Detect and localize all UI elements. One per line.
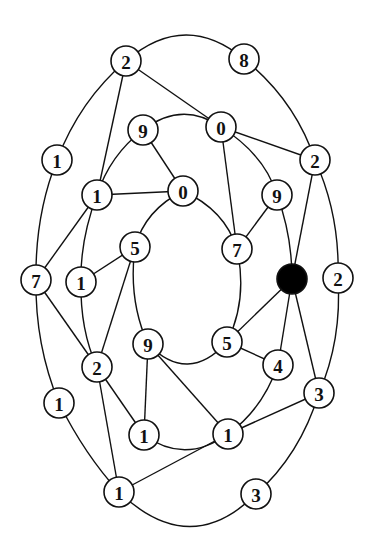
graph-edge [315,160,338,278]
graph-node: 1 [44,388,74,418]
graph-node: 9 [133,329,163,359]
graph-node: 7 [21,265,51,295]
graph-node: 1 [104,477,134,507]
graph-edge [292,279,319,393]
graph-node: 3 [304,378,334,408]
graph-edge [119,492,256,527]
node-label: 1 [114,483,124,504]
node-label: 5 [130,238,140,259]
graph-diagram: 281902109572719542311113 [0,0,378,560]
graph-edge [319,278,339,393]
graph-node: 2 [111,46,141,76]
node-label: 1 [76,273,86,294]
node-label: 7 [232,240,242,261]
graph-node: 1 [129,420,159,450]
graph-node: 5 [212,327,242,357]
node-label: 8 [239,50,249,71]
node-label: 9 [138,121,148,142]
graph-node: 1 [66,267,96,297]
graph-edge [59,403,119,492]
graph-node: 5 [120,232,150,262]
node-label: 3 [251,485,261,506]
node-label: 2 [333,269,343,290]
node-label: 7 [31,271,41,292]
node-label: 1 [52,151,62,172]
node-label: 2 [92,358,102,379]
node-label: 9 [272,186,282,207]
node-label: 2 [121,52,131,73]
graph-node: 9 [262,180,292,210]
graph-edge [97,247,135,367]
graph-node: 4 [263,350,293,380]
graph-edge [97,61,126,195]
graph-edge [36,160,57,280]
graph-node: 9 [128,115,158,145]
graph-node: 2 [323,263,353,293]
graph-edge [126,35,244,61]
node-label: 4 [273,356,283,377]
graph-node: 1 [82,180,112,210]
graph-node: 8 [229,44,259,74]
node-circle [277,264,307,294]
node-label: 1 [92,186,102,207]
graph-node: 1 [42,145,72,175]
node-label: 3 [314,384,324,405]
graph-node: 0 [206,112,236,142]
graph-edge [97,367,119,492]
graph-edge [292,160,315,279]
node-label: 2 [310,151,320,172]
node-label: 9 [143,335,153,356]
node-label: 0 [216,118,226,139]
graph-edge [256,393,319,494]
graph-node: 2 [300,145,330,175]
node-label: 1 [223,425,233,446]
node-label: 1 [139,426,149,447]
graph-node: 3 [241,479,271,509]
graph-node: 0 [168,176,198,206]
node-label: 5 [222,333,232,354]
graph-node-filled [277,264,307,294]
graph-node: 1 [213,419,243,449]
node-label: 1 [54,394,64,415]
node-label: 0 [178,182,188,203]
graph-node: 7 [222,234,252,264]
graph-edge [148,344,228,434]
graph-edge [36,280,59,403]
graph-node: 2 [82,352,112,382]
graph-edge [244,59,315,160]
